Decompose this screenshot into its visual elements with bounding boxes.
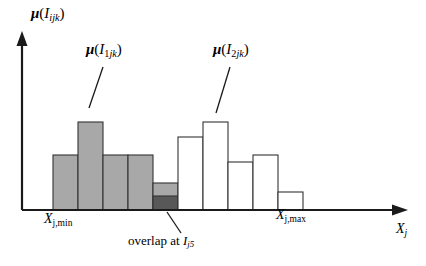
- leader-mu-2jk: [216, 67, 230, 113]
- series-2-subscript: jk: [236, 48, 243, 59]
- bar-white-2: [203, 122, 228, 210]
- x-axis-label: Xj: [396, 222, 407, 236]
- bar-gray-1: [53, 155, 78, 210]
- series-mu-2jk-bars: [178, 122, 303, 210]
- paren-close: ): [60, 5, 65, 21]
- x-max-subscript: j,max: [285, 214, 306, 224]
- x-axis-arrowhead: [392, 205, 408, 216]
- x-min-subscript: j,min: [53, 218, 73, 228]
- bar-white-3: [228, 162, 253, 210]
- bar-gray-4: [128, 155, 153, 210]
- bar-white-1: [178, 137, 203, 210]
- series-1-subscript: jk: [109, 48, 116, 59]
- X-glyph: X: [44, 211, 53, 226]
- paren-close: ): [117, 41, 122, 57]
- y-axis-arrowhead: [17, 31, 28, 46]
- y-axis-subscript: ijk: [49, 12, 59, 23]
- X-glyph: X: [276, 207, 285, 222]
- overlap-region: [153, 196, 178, 210]
- bar-overlap-dark: [153, 196, 178, 210]
- series-2-label: μ(I2jk): [213, 42, 249, 57]
- x-max-label: Xj,max: [276, 208, 306, 222]
- y-axis-label: μ(Iijk): [31, 6, 65, 21]
- series-1-label: μ(I1jk): [86, 42, 122, 57]
- paren-close: ): [244, 41, 249, 57]
- overlap-text: overlap at: [128, 233, 183, 248]
- leader-overlap: [167, 212, 181, 233]
- x-min-label: Xj,min: [44, 212, 72, 226]
- X-glyph: X: [396, 221, 405, 236]
- leader-mu-1jk: [89, 67, 103, 108]
- bar-gray-2: [78, 122, 103, 210]
- overlap-annotation: overlap at Ij5: [128, 234, 194, 247]
- bar-white-4: [253, 155, 278, 210]
- bar-gray-3: [103, 155, 128, 210]
- overlap-subscript: j5: [187, 239, 194, 249]
- x-axis-subscript: j: [405, 228, 408, 238]
